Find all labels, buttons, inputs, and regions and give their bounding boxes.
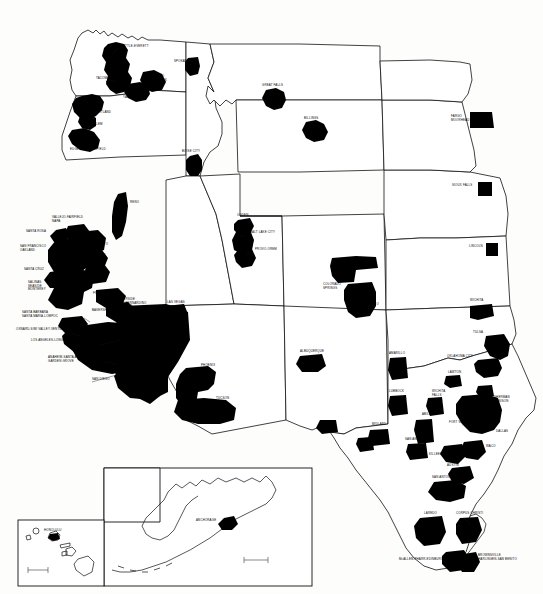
metro-label-anaheim-santa-ana: ANAHEIM-SANTA ANAGARDEN GROVE (48, 355, 81, 363)
metro-label-dallas: DALLAS (496, 429, 508, 433)
metro-label-austin: AUSTIN (447, 463, 459, 467)
metro-label-honolulu: HONOLULU (44, 528, 62, 532)
metro-sioux-falls-shape (478, 182, 492, 196)
metro-label-midland: MIDLAND (372, 422, 386, 426)
metro-label-oxnard-ventura: OXNARD-SIMI VALLEY-VENTURA (16, 327, 66, 331)
metro-label-tulsa: TULSA (473, 330, 483, 334)
metro-label-salem: SALEM (92, 122, 103, 126)
metro-label-lubbock: LUBBOCK (389, 389, 404, 393)
metro-label-great-falls: GREAT FALLS (262, 83, 283, 87)
metro-albuquerque-shape (296, 354, 326, 372)
metro-label-mcallen-pharr-edinburg: McALLEN-PHARR-EDINBURG (399, 557, 444, 561)
metro-label-laredo: LAREDO (424, 511, 438, 515)
metro-label-spokane: SPOKANE (174, 59, 189, 63)
state-montana (206, 44, 382, 106)
metro-label-yakima: YAKIMA (123, 95, 135, 99)
metro-label-sioux-falls: SIOUX FALLS (452, 183, 472, 187)
metro-label-ogden: OGDEN (237, 213, 249, 217)
state-southdakota (382, 100, 476, 172)
metro-label-lawton: LAWTON (448, 370, 461, 374)
metro-fargo-moorhead-shape (470, 112, 494, 128)
metro-lincoln-shape (486, 243, 498, 256)
metro-san-angelo-shape (406, 443, 428, 460)
metro-label-oklahoma-city: OKLAHOMA CITY (447, 354, 473, 358)
metro-label-amarillo: AMARILLO (389, 351, 406, 355)
metro-label-sacramento: SACRAMENTO (86, 242, 109, 246)
state-nebraska (384, 170, 508, 240)
metro-label-boise-city: BOISE CITY (182, 149, 200, 153)
metro-label-abilene: ABILENE (422, 412, 435, 416)
metro-label-billings: BILLINGS (304, 116, 318, 120)
metro-label-tacoma: TACOMA (96, 76, 109, 80)
metro-label-tucson: TUCSON (216, 396, 229, 400)
metro-label-san-francisco-oakland: SAN FRANCISCOOAKLAND (20, 244, 47, 252)
metro-label-anchorage: ANCHORAGE (196, 518, 216, 522)
metro-label-san-diego: SAN DIEGO (92, 377, 110, 381)
metro-label-fort-worth: FORT WORTH (449, 420, 470, 424)
metro-label-reno: RENO (130, 200, 140, 204)
metro-label-denver: DENVER (356, 259, 369, 263)
metro-label-santa-rosa: SANTA ROSA (26, 229, 46, 233)
metro-label-fargo-moorhead: FARGOMOORHEAD (451, 114, 469, 122)
metro-label-san-angelo: SAN ANGELO (405, 437, 426, 441)
state-northdakota (380, 60, 472, 102)
metro-label-las-vegas: LAS VEGAS (167, 300, 185, 304)
metro-label-el-paso: EL PASO (321, 429, 335, 433)
alaska-inset-notch (104, 468, 160, 522)
metro-label-vallejo-fairfield-napa: VALLEJO-FAIRFIELDNAPA (52, 215, 83, 223)
metro-label-fresno: FRESNO (93, 291, 107, 295)
metro-salinas-seaside-monterey-shape (48, 286, 84, 310)
metro-label-brownsville-harlingen: BROWNSVILLEHARLINGEN-SAN BENITO (478, 553, 517, 561)
metro-label-salt-lake-city: SALT LAKE CITY (250, 230, 275, 234)
alaska-inset (104, 468, 312, 586)
metro-label-modesto: MODESTO (88, 267, 104, 271)
metro-label-eugene-springfield: EUGENE-SPRINGFIELD (70, 147, 106, 151)
metro-label-wichita: WICHITA (470, 298, 483, 302)
us-metropolitan-areas-map: SEATTLE-EVERETTTACOMASPOKANERICHLANDKENN… (0, 0, 543, 594)
metro-label-albuquerque: ALBUQUERQUE (300, 349, 324, 353)
metro-lubbock-shape (388, 395, 408, 416)
metro-amarillo-shape (388, 357, 408, 380)
metro-label-portland: PORTLAND (94, 110, 111, 114)
metro-label-odessa: ODESSA (365, 437, 378, 441)
metro-tucson-shape (174, 398, 236, 424)
metro-reno-shape (112, 192, 128, 240)
metro-label-salinas-seaside-monterey: SALINASSEASIDEMONTEREY (28, 280, 46, 291)
metro-label-stockton: STOCKTON (88, 253, 105, 257)
metro-label-sherman-denison: SHERMANDENISON (494, 395, 510, 403)
metro-label-provo-orem: PROVO-OREM (255, 247, 277, 251)
metro-label-pueblo: PUEBLO (366, 302, 379, 306)
metro-label-bakersfield: BAKERSFIELD (92, 308, 114, 312)
state-newmexico (284, 306, 388, 434)
map-canvas: SEATTLE-EVERETTTACOMASPOKANERICHLANDKENN… (0, 0, 543, 594)
metro-label-phoenix: PHOENIX (201, 363, 215, 367)
metro-label-los-angeles-long-beach: LOS ANGELES-LONG BEACH (31, 338, 75, 342)
metro-label-san-antonio: SAN ANTONIO (432, 475, 454, 479)
metro-label-santa-cruz: SANTA CRUZ (24, 267, 44, 271)
metro-label-killeen-temple: KILLEEN-TEMPLE (429, 452, 456, 456)
metro-label-lincoln: LINCOLN (469, 244, 483, 248)
metro-label-waco: WACO (486, 444, 496, 448)
metro-label-corpus-christi: CORPUS CHRISTI (456, 511, 483, 515)
metro-label-seattle-everett: SEATTLE-EVERETT (119, 44, 149, 48)
metro-label-santa-barbara: SANTA BARBARASANTA MARIA-LOMPOC (22, 310, 58, 318)
metro-label-san-jose: SAN JOSE (73, 277, 89, 281)
